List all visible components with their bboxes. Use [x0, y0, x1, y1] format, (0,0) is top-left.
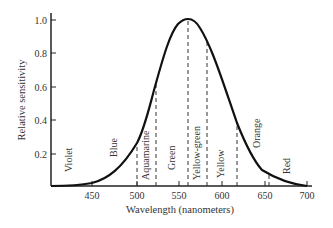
band-label-red: Red: [281, 158, 292, 174]
band-label-orange: Orange: [251, 118, 262, 148]
y-tick-label: 0.8: [35, 48, 48, 59]
x-tick-labels: 450 500 550 600 650 700: [85, 190, 315, 201]
y-tick-labels: 0.2 0.4 0.6 0.8 1.0: [35, 15, 48, 160]
sensitivity-chart: 0.2 0.4 0.6 0.8 1.0 450 500 550 600 650 …: [0, 0, 333, 228]
y-tick-label: 0.6: [35, 82, 48, 93]
x-tick-label: 450: [85, 190, 100, 201]
x-axis-title: Wavelength (nanometers): [126, 204, 234, 216]
band-label-violet: Violet: [63, 147, 74, 172]
band-labels: Violet Blue Aquamarine Green Yellow-gree…: [63, 118, 292, 180]
y-axis-title: Relative sensitivity: [16, 59, 27, 141]
x-tick-label: 550: [172, 190, 187, 201]
x-tick-label: 650: [258, 190, 273, 201]
band-label-yellow: Yellow: [215, 149, 226, 178]
x-tick-label: 600: [215, 190, 230, 201]
band-boundaries: [137, 20, 269, 186]
sensitivity-curve: [51, 19, 307, 186]
band-label-aquamarine: Aquamarine: [140, 130, 151, 180]
y-tick-label: 0.4: [35, 115, 48, 126]
y-tick-label: 0.2: [35, 149, 48, 160]
band-label-green: Green: [166, 146, 177, 170]
y-tick-label: 1.0: [35, 15, 48, 26]
band-label-blue: Blue: [108, 138, 119, 157]
x-tick-label: 500: [130, 190, 145, 201]
x-tick-label: 700: [300, 190, 315, 201]
band-label-yellow-green: Yellow-green: [191, 126, 202, 180]
